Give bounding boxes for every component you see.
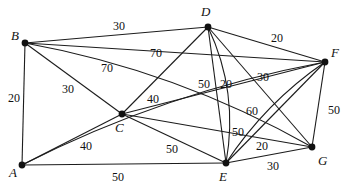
edge-weight-label: 40 [147, 93, 159, 105]
edge-weight-label: 20 [271, 32, 283, 44]
node-C[interactable] [119, 111, 126, 118]
node-A[interactable] [19, 162, 26, 169]
node-label-B: B [11, 29, 19, 42]
edge-weight-label: 30 [62, 83, 74, 95]
graph-svg [0, 0, 347, 186]
node-label-C: C [115, 121, 124, 134]
edge-weight-label: 50 [232, 126, 244, 138]
node-label-A: A [9, 166, 17, 179]
edge-D-E [208, 27, 230, 163]
edge-weight-label: 20 [220, 78, 232, 90]
edge-A-B [22, 43, 25, 165]
node-E[interactable] [223, 160, 230, 167]
edge-weight-label: 70 [101, 62, 113, 74]
edge-weight-label: 50 [328, 104, 340, 116]
edge-weight-label: 20 [8, 92, 20, 104]
edge-weight-label: 70 [150, 47, 162, 59]
edge-weight-label: 50 [198, 78, 210, 90]
edge-weight-label: 50 [166, 143, 178, 155]
node-B[interactable] [22, 40, 29, 47]
edge-weight-label: 30 [257, 71, 269, 83]
node-label-G: G [318, 154, 327, 167]
edge-F-G [312, 62, 325, 147]
node-F[interactable] [322, 59, 329, 66]
edge-D-F [208, 27, 325, 62]
node-label-D: D [201, 5, 210, 18]
node-label-F: F [331, 46, 339, 59]
edge-weight-label: 20 [256, 140, 268, 152]
edge-weight-label: 40 [80, 140, 92, 152]
edge-weight-label: 50 [112, 171, 124, 183]
node-D[interactable] [205, 24, 212, 31]
edge-weight-label: 30 [113, 20, 125, 32]
edge-weight-label: 60 [246, 105, 258, 117]
node-label-E: E [219, 170, 227, 183]
graph-canvas: ABCDEFG203070703040506040505020203050203… [0, 0, 347, 186]
edge-C-G [122, 114, 312, 147]
edge-weight-label: 30 [267, 160, 279, 172]
edge-A-E [22, 163, 226, 165]
node-G[interactable] [309, 144, 316, 151]
